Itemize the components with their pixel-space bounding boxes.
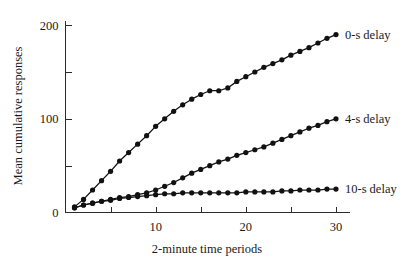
- data-point: [207, 88, 212, 93]
- series-0: [72, 32, 339, 210]
- y-axis-tick-labels: 0100200: [40, 19, 59, 220]
- data-point: [279, 57, 284, 62]
- data-point: [333, 186, 338, 191]
- data-point: [297, 129, 302, 134]
- data-point: [315, 123, 320, 128]
- data-point: [126, 195, 131, 200]
- data-point: [225, 190, 230, 195]
- data-point: [234, 190, 239, 195]
- data-point: [333, 116, 338, 121]
- data-point: [198, 92, 203, 97]
- legend-label-0: 0-s delay: [345, 28, 391, 42]
- legend-label-2: 10-s delay: [345, 182, 397, 196]
- series-line: [75, 35, 336, 207]
- data-point: [90, 187, 95, 192]
- x-tick-label: 30: [330, 220, 343, 234]
- data-point: [297, 187, 302, 192]
- data-point: [225, 85, 230, 90]
- data-point: [198, 167, 203, 172]
- data-point: [207, 190, 212, 195]
- y-tick-label: 0: [52, 206, 58, 220]
- x-axis-title: 2-minute time periods: [152, 242, 263, 256]
- data-point: [324, 119, 329, 124]
- data-point: [90, 201, 95, 206]
- data-point: [306, 187, 311, 192]
- data-point: [72, 205, 77, 210]
- data-point: [252, 189, 257, 194]
- data-point: [243, 189, 248, 194]
- data-point: [135, 142, 140, 147]
- data-point: [126, 150, 131, 155]
- data-point: [324, 36, 329, 41]
- data-point: [171, 180, 176, 185]
- data-point: [162, 191, 167, 196]
- x-axis-ticks: [112, 207, 337, 213]
- data-point: [99, 199, 104, 204]
- data-point: [189, 97, 194, 102]
- data-point: [117, 158, 122, 163]
- data-point: [324, 186, 329, 191]
- data-point: [243, 74, 248, 79]
- data-point: [180, 102, 185, 107]
- data-point: [189, 171, 194, 176]
- data-point: [99, 178, 104, 183]
- data-point: [306, 126, 311, 131]
- series-1: [72, 116, 339, 210]
- data-point: [144, 193, 149, 198]
- data-point: [108, 169, 113, 174]
- data-point: [252, 69, 257, 74]
- data-point: [162, 116, 167, 121]
- series-layer: [72, 32, 339, 210]
- data-point: [117, 196, 122, 201]
- data-point: [180, 190, 185, 195]
- data-point: [297, 49, 302, 54]
- data-point: [216, 190, 221, 195]
- data-point: [315, 187, 320, 192]
- data-point: [171, 191, 176, 196]
- data-point: [135, 194, 140, 199]
- data-point: [180, 175, 185, 180]
- series-line: [75, 119, 336, 208]
- data-point: [288, 188, 293, 193]
- x-tick-label: 10: [149, 220, 162, 234]
- data-point: [288, 133, 293, 138]
- data-point: [81, 197, 86, 202]
- y-axis-ticks: [66, 26, 72, 167]
- data-point: [153, 192, 158, 197]
- data-point: [153, 187, 158, 192]
- data-point: [234, 79, 239, 84]
- legend-label-1: 4-s delay: [345, 112, 391, 126]
- data-point: [225, 157, 230, 162]
- x-tick-label: 20: [240, 220, 253, 234]
- data-point: [81, 202, 86, 207]
- data-point: [270, 141, 275, 146]
- x-axis-tick-labels: 102030: [149, 220, 342, 234]
- data-point: [144, 133, 149, 138]
- data-point: [261, 65, 266, 70]
- chart-legend: 0-s delay4-s delay10-s delay: [345, 28, 397, 197]
- y-tick-label: 100: [40, 112, 59, 126]
- data-point: [270, 61, 275, 66]
- data-point: [261, 189, 266, 194]
- data-point: [315, 40, 320, 45]
- data-point: [216, 88, 221, 93]
- data-point: [252, 147, 257, 152]
- data-point: [198, 190, 203, 195]
- data-point: [108, 198, 113, 203]
- data-point: [216, 159, 221, 164]
- data-point: [279, 137, 284, 142]
- data-point: [261, 144, 266, 149]
- y-axis-title: Mean cumulative responses: [11, 46, 25, 185]
- y-tick-label: 200: [40, 19, 59, 33]
- data-point: [234, 153, 239, 158]
- chart-plot-area: 0100200 102030 0-s delay4-s delay10-s de…: [0, 0, 419, 263]
- data-point: [153, 124, 158, 129]
- data-point: [171, 109, 176, 114]
- data-point: [189, 190, 194, 195]
- data-point: [270, 189, 275, 194]
- data-point: [207, 163, 212, 168]
- data-point: [306, 45, 311, 50]
- data-point: [279, 188, 284, 193]
- chart-figure: 0100200 102030 0-s delay4-s delay10-s de…: [0, 0, 419, 263]
- data-point: [288, 53, 293, 58]
